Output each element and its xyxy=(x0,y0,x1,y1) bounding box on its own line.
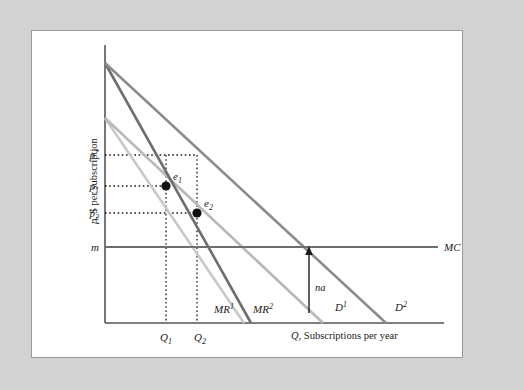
dotted-guides xyxy=(105,155,197,323)
point-label-e2: e2 xyxy=(204,197,213,212)
curve-label-mr2: MR2 xyxy=(252,302,273,315)
x-tick-q2: Q2 xyxy=(194,331,206,346)
chart-axes xyxy=(105,45,444,323)
point-e1 xyxy=(161,181,170,190)
curve-label-mc: MC xyxy=(443,241,461,253)
curve-mr2 xyxy=(105,63,251,323)
point-e2 xyxy=(192,208,201,217)
economics-chart: p, $ per subscription Q, Subscriptions p… xyxy=(32,31,464,359)
x-axis-label: Q, Subscriptions per year xyxy=(291,330,398,341)
curve-d2 xyxy=(105,63,386,323)
chart-curves xyxy=(105,63,438,323)
curve-label-mr1: MR1 xyxy=(213,302,234,315)
x-tick-q1: Q1 xyxy=(160,331,172,346)
curve-label-d2: D2 xyxy=(394,300,407,313)
curve-mr1 xyxy=(105,118,244,323)
curve-d1 xyxy=(105,118,323,323)
na-label: na xyxy=(315,282,326,293)
na-annotation xyxy=(305,246,313,313)
figure-panel: p, $ per subscription Q, Subscriptions p… xyxy=(31,30,463,358)
curve-label-d1: D1 xyxy=(334,300,347,313)
x-axis-label-text: , Subscriptions per year xyxy=(299,330,399,341)
y-tick-m: m xyxy=(91,241,99,253)
